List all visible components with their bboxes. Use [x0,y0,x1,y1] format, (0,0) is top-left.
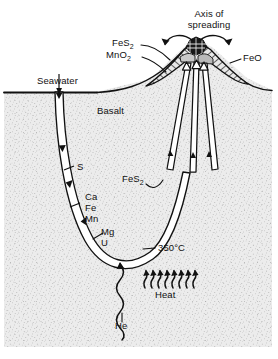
mno2-text: MnO [106,49,127,60]
magnesium-label: Mg [101,226,114,237]
fes2-conduit-label: FeS2 [122,174,144,187]
seawater-label: Seawater [37,76,78,87]
fes2-top-text: FeS [112,37,130,48]
manganese-label: Mn [85,213,98,224]
heat-label: Heat [155,290,175,301]
hydrothermal-circulation-diagram: Axis of spreading FeS2 MnO2 FeO Seawater… [0,0,278,359]
axis-of-spreading-line2: spreading [188,19,231,30]
iron-label: Fe [85,202,96,213]
basalt-label: Basalt [97,106,124,117]
temperature-label: 350°C [158,243,185,254]
axis-of-spreading-label: Axis of spreading [178,8,240,30]
removed-elements-group: Mg U [101,226,114,248]
fes2-mid-subscript: 2 [140,179,144,186]
uranium-label: U [101,237,108,248]
feo-label: FeO [243,53,262,64]
mno2-subscript: 2 [127,55,131,62]
leached-elements-group: Ca Fe Mn [85,191,98,225]
sulfur-label: S [77,162,83,173]
mno2-label: MnO2 [106,50,131,63]
calcium-label: Ca [85,191,97,202]
fes2-mid-text: FeS [122,173,140,184]
helium-label: He [115,321,127,332]
axis-of-spreading-line1: Axis of [194,8,223,19]
fes2-top-subscript: 2 [130,43,134,50]
